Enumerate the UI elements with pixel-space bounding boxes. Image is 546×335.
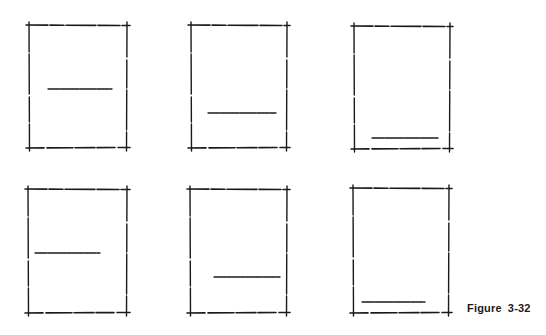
sketch-frame-1 — [26, 22, 130, 151]
figure-number: 3-32 — [508, 302, 531, 314]
figure-caption: Figure3-32 — [467, 302, 531, 314]
sketch-frame-4 — [25, 186, 130, 316]
figure-label: Figure — [467, 302, 502, 314]
sketch-frame-5 — [187, 186, 290, 316]
sketch-frame-2 — [188, 22, 290, 151]
sketch-frame-6 — [350, 185, 452, 316]
figure-diagram — [0, 0, 546, 335]
sketch-frame-3 — [351, 23, 453, 152]
